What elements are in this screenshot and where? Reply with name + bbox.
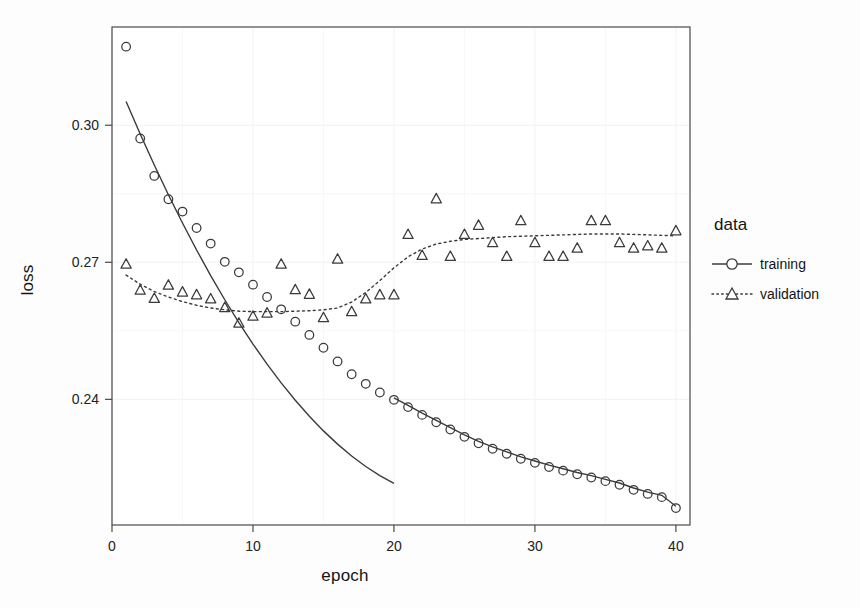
svg-text:20: 20 [386, 538, 402, 554]
legend-title: data [714, 215, 860, 235]
y-axis-title: loss [18, 230, 38, 330]
svg-text:0.27: 0.27 [72, 254, 99, 270]
legend-item-training[interactable]: training [710, 249, 860, 279]
plot-panel-background [112, 27, 690, 525]
legend-label-validation: validation [760, 286, 819, 302]
svg-text:0: 0 [108, 538, 116, 554]
x-axis-ticks [112, 525, 676, 532]
dotted-line-triangle-key [710, 283, 754, 305]
svg-text:0.30: 0.30 [72, 117, 99, 133]
svg-text:30: 30 [527, 538, 543, 554]
y-axis-tick-labels: 0.240.270.30 [72, 117, 99, 407]
chart-figure: 010203040 0.240.270.30 epoch loss data t… [0, 0, 860, 608]
svg-text:10: 10 [245, 538, 261, 554]
svg-text:40: 40 [668, 538, 684, 554]
legend-label-training: training [760, 256, 806, 272]
x-axis-title: epoch [0, 566, 690, 586]
chart-legend: data training validation [710, 215, 860, 309]
solid-line-circle-key [710, 253, 754, 275]
y-axis-ticks [105, 125, 112, 399]
x-axis-tick-labels: 010203040 [108, 538, 684, 554]
legend-item-validation[interactable]: validation [710, 279, 860, 309]
svg-text:0.24: 0.24 [72, 391, 99, 407]
